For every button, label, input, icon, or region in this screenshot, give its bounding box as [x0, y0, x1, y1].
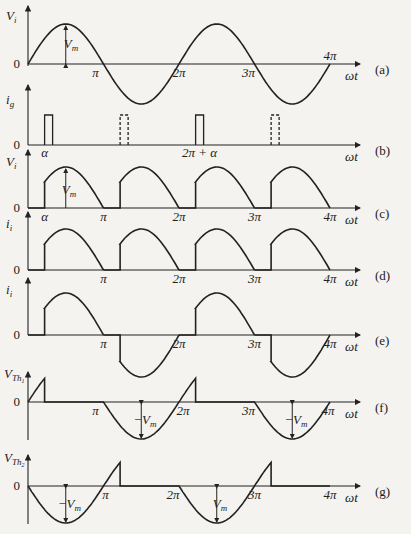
vm-annotation: Vm	[213, 496, 228, 513]
gate-pulse-dashed	[120, 115, 128, 145]
panel-tag: (a)	[375, 62, 389, 77]
tick-label: 4π	[321, 403, 335, 418]
zero-label: 0	[14, 478, 21, 493]
gate-pulse-dashed	[271, 115, 279, 145]
x-axis-label: ωt	[345, 149, 358, 164]
output-current-wave	[28, 229, 330, 270]
panel-tag: (f)	[375, 400, 388, 415]
tick-label: π	[100, 271, 107, 286]
x-axis-label: ωt	[345, 490, 358, 505]
tick-label: 2π	[166, 487, 180, 502]
panel-tag: (g)	[375, 484, 390, 499]
tick-label: π	[100, 209, 107, 224]
tick-label: 4π	[323, 209, 337, 224]
tick-label: 2π	[172, 271, 186, 286]
x-axis-label: ωt	[345, 68, 358, 83]
panel-tag: (c)	[375, 206, 389, 221]
y-axis-label: ii	[6, 216, 13, 233]
tick-label: 4π	[323, 336, 337, 351]
y-axis-label: VTh1	[4, 366, 24, 384]
tick-label: 2π	[176, 403, 190, 418]
y-axis-label: VTh2	[4, 450, 24, 468]
y-axis-label: ii	[6, 282, 13, 299]
x-axis-label: ωt	[345, 406, 358, 421]
y-axis-label: ig	[6, 92, 15, 109]
zero-label: 0	[14, 327, 21, 342]
tick-label: 4π	[323, 48, 337, 63]
vm-annotation: Vm	[64, 36, 79, 53]
tick-label: π	[92, 65, 99, 80]
tick-label: π	[102, 487, 109, 502]
gate-pulse	[45, 115, 53, 145]
tick-label: 4π	[323, 271, 337, 286]
output-voltage-wave	[28, 167, 330, 208]
panel-tag: (e)	[375, 333, 389, 348]
zero-label: 0	[14, 200, 21, 215]
alpha-label: α	[41, 209, 49, 224]
gate-pulse	[196, 115, 204, 145]
tick-label: 3π	[241, 403, 256, 418]
x-axis-label: ωt	[345, 212, 358, 227]
tick-label: 3π	[247, 209, 262, 224]
tick-label: 2π	[172, 336, 186, 351]
tick-label: 4π	[323, 487, 337, 502]
tick-label: 3π	[241, 65, 256, 80]
panel-tag: (b)	[375, 143, 390, 158]
tick-label: 3π	[247, 487, 262, 502]
waveform-figure: 0ωt(a)ViVmπ2π3π4π0ωt(b)igα2π + α0ωt(c)Vi…	[0, 0, 411, 534]
tick-label: 3π	[247, 336, 262, 351]
zero-label: 0	[14, 262, 21, 277]
tick-label: 2π	[172, 65, 186, 80]
y-axis-label: Vi	[6, 154, 17, 171]
tick-label: π	[100, 336, 107, 351]
neg-vm-annotation: −Vm	[284, 412, 308, 429]
tick-label: 2π	[172, 209, 186, 224]
zero-label: 0	[14, 137, 21, 152]
neg-vm-annotation: −Vm	[133, 412, 157, 429]
x-axis-label: ωt	[345, 339, 358, 354]
tick-label: π	[92, 403, 99, 418]
alpha2-label: 2π + α	[182, 145, 218, 160]
x-axis-label: ωt	[345, 274, 358, 289]
neg-vm-annotation: −Vm	[58, 496, 82, 513]
vm-annotation: Vm	[62, 182, 77, 199]
y-axis-label: Vi	[6, 8, 17, 25]
tick-label: 3π	[247, 271, 262, 286]
zero-label: 0	[14, 394, 21, 409]
zero-label: 0	[14, 56, 21, 71]
alpha-label: α	[41, 145, 49, 160]
panel-tag: (d)	[375, 268, 390, 283]
